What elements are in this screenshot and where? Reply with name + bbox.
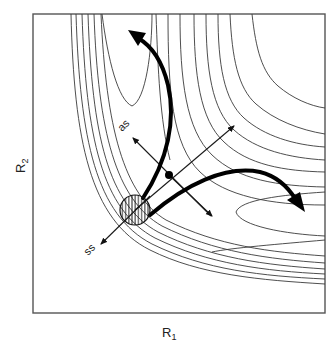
diagonal-through-saddle-arrow [135,126,234,210]
svg-text:R1: R1 [162,325,176,342]
hatched-region [120,195,150,225]
saddle-point [165,171,173,179]
svg-text:R2: R2 [13,159,30,173]
potential-energy-surface-diagram: as ss R1 R2 [0,0,336,343]
symmetric-stretch-label: ss [81,241,98,258]
antisymmetric-stretch-label: as [115,116,132,133]
contour-lines [71,14,325,284]
plot-frame [33,14,325,313]
x-axis-label: R1 [162,325,176,342]
y-axis-label: R2 [13,159,30,173]
